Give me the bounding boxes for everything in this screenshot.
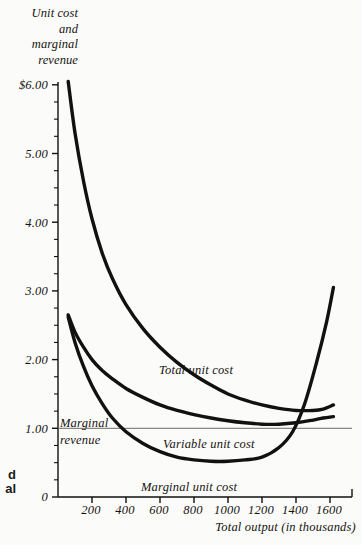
curve-total-unit-cost: [68, 81, 333, 410]
curve-variable-unit-cost: [68, 315, 333, 424]
cost-curves: [68, 81, 333, 461]
chart-figure: d al Unit cost and marginal revenue $6.0…: [0, 0, 362, 545]
plot-area: [0, 0, 362, 545]
axis-lines: [58, 82, 352, 497]
